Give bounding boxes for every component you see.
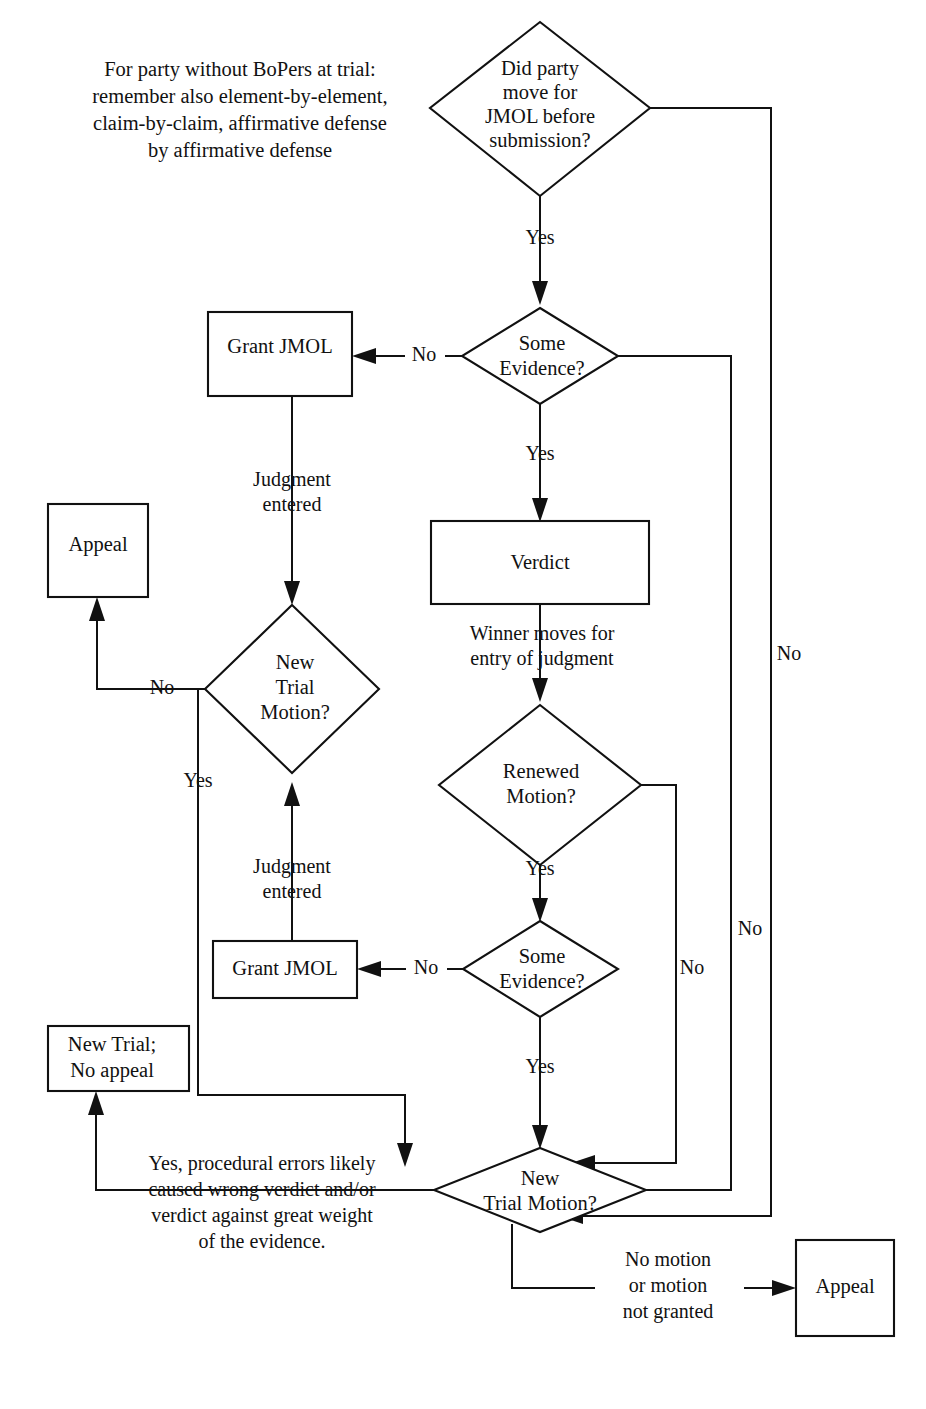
node-label-some-ev2-l2: Evidence?: [499, 970, 584, 992]
arrowhead-some-ev2-no: [357, 961, 381, 977]
flowchart-svg: Did party move for JMOL before submissio…: [0, 0, 926, 1409]
node-new-trial-motion-2[interactable]: [434, 1148, 646, 1232]
edge-label-judgment-entered-2-l1: Judgment: [253, 855, 331, 878]
note-bopers-l2: remember also element-by-element,: [92, 85, 387, 108]
node-label-some-ev2-l1: Some: [519, 945, 566, 967]
edge-label-judgment-entered-2-l2: entered: [263, 880, 322, 902]
edge-label-procedural-l1: Yes, procedural errors likely: [149, 1152, 376, 1175]
node-label-grant-jmol-1: Grant JMOL: [227, 335, 332, 357]
edge-label-winner-l1: Winner moves for: [470, 622, 615, 644]
edge-label-no-renewed: No: [680, 956, 704, 978]
node-label-renewed-l2: Motion?: [506, 785, 575, 807]
arrowhead-verdict-winner: [532, 678, 548, 702]
arrowhead-grant1-judgment: [284, 581, 300, 605]
edge-label-no-top-right: No: [777, 642, 801, 664]
arrowhead-some-ev1-no: [352, 348, 376, 364]
edge-label-judgment-entered-1-l2: entered: [263, 493, 322, 515]
node-label-ntm1-l3: Motion?: [260, 701, 329, 723]
edge-label-no-motion-l2: or motion: [629, 1274, 707, 1296]
arrowhead-some-ev1-yes: [532, 498, 548, 522]
edge-label-no-appeal-1: No: [150, 676, 174, 698]
edge-label-procedural-l4: of the evidence.: [198, 1230, 325, 1252]
edge-ntm2-no-motion-left: [512, 1224, 595, 1288]
node-label-ntm1-l2: Trial: [275, 676, 314, 698]
edge-label-procedural-l2: caused wrong verdict and/or: [148, 1178, 375, 1201]
node-label-some-ev1-l1: Some: [519, 332, 566, 354]
edge-label-no-motion-l3: not granted: [623, 1300, 714, 1323]
edge-label-yes-1: Yes: [525, 226, 554, 248]
node-label-grant-jmol-2: Grant JMOL: [232, 957, 337, 979]
edge-label-yes-4: Yes: [525, 857, 554, 879]
edge-label-yes-3: Yes: [183, 769, 212, 791]
edge-label-no-grant-1: No: [412, 343, 436, 365]
edge-label-winner-l2: entry of judgment: [470, 647, 614, 670]
arrowhead-ntm1-no: [89, 597, 105, 621]
note-bopers-l1: For party without BoPers at trial:: [104, 58, 376, 81]
node-label-ntna-l1: New Trial;: [68, 1033, 156, 1055]
node-label-ntna-l2: No appeal: [70, 1059, 154, 1082]
node-label-some-ev1-l2: Evidence?: [499, 357, 584, 379]
node-label-jmol-l1: Did party: [501, 57, 580, 80]
node-label-jmol-l2: move for: [503, 81, 578, 103]
arrowhead-ntm2-appeal: [772, 1280, 796, 1296]
node-label-ntm2-l1: New: [521, 1167, 560, 1189]
edge-label-procedural-l3: verdict against great weight: [151, 1204, 373, 1227]
note-bopers-l3: claim-by-claim, affirmative defense: [93, 112, 387, 135]
edge-label-yes-5: Yes: [525, 1055, 554, 1077]
node-label-verdict: Verdict: [510, 551, 570, 573]
arrowhead-grant2-judgment: [284, 782, 300, 806]
arrowhead-jmol-yes: [532, 281, 548, 305]
node-label-renewed-l1: Renewed: [503, 760, 579, 782]
arrowhead-some-ev2-yes: [532, 1125, 548, 1149]
node-label-appeal-1: Appeal: [68, 533, 128, 556]
arrowhead-renewed-yes: [532, 898, 548, 922]
node-label-ntm1-l1: New: [276, 651, 315, 673]
arrowhead-ntm2-yes-procedural: [88, 1091, 104, 1115]
node-label-appeal-2: Appeal: [815, 1275, 875, 1298]
note-bopers-l4: by affirmative defense: [148, 139, 332, 162]
arrowhead-ntm1-yes: [397, 1143, 413, 1167]
edge-label-no-mid-right: No: [738, 917, 762, 939]
edge-label-yes-2: Yes: [525, 442, 554, 464]
flowchart-canvas: Did party move for JMOL before submissio…: [0, 0, 926, 1409]
edge-label-judgment-entered-1-l1: Judgment: [253, 468, 331, 491]
edge-label-no-motion-l1: No motion: [625, 1248, 711, 1270]
node-label-jmol-l4: submission?: [489, 129, 590, 151]
node-label-jmol-l3: JMOL before: [485, 105, 595, 127]
node-label-ntm2-l2: Trial Motion?: [483, 1192, 597, 1214]
edge-label-no-grant-2: No: [414, 956, 438, 978]
